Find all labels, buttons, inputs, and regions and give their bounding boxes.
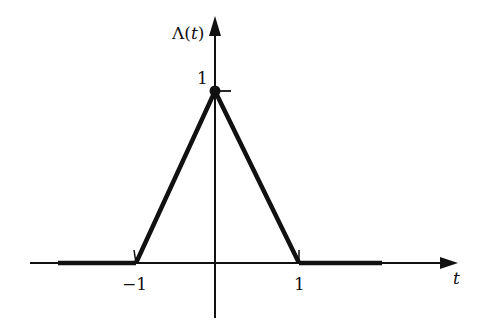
x-tick-label-1: 1 bbox=[294, 274, 305, 294]
peak-marker bbox=[210, 86, 232, 97]
triangle-function-diagram: Λ(t) 1 −1 1 t bbox=[0, 0, 483, 333]
x-axis-label: t bbox=[453, 268, 460, 288]
y-axis bbox=[209, 16, 221, 318]
x-tick-label-neg1: −1 bbox=[122, 274, 147, 294]
triangle-curve bbox=[134, 91, 299, 263]
y-axis-arrow-icon bbox=[209, 16, 221, 36]
function-label: Λ(t) bbox=[171, 23, 204, 43]
y-tick-label-1: 1 bbox=[197, 68, 208, 88]
